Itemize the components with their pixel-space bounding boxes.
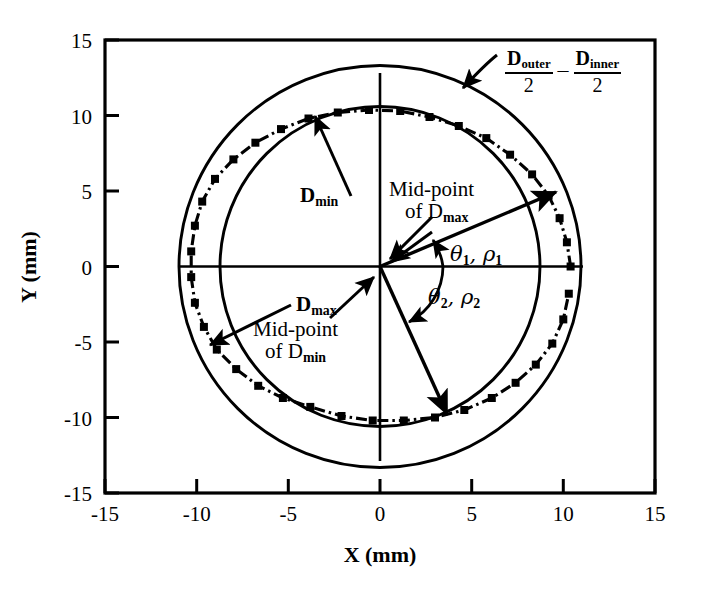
annotation-theta2-rho2: θ2, ρ2 (428, 286, 480, 311)
dmin-sub: min (315, 194, 338, 209)
svg-text:10: 10 (553, 502, 574, 526)
y-axis-title: Y (mm) (16, 231, 41, 303)
formula-num1-sub: outer (521, 57, 550, 71)
rho2-sub: 2 (473, 296, 480, 311)
dmin-label: D (300, 183, 315, 207)
dmax-label: D (296, 292, 311, 316)
y-tick-labels: 15 10 5 0 -5 -10 -15 (64, 29, 92, 506)
svg-text:15: 15 (71, 29, 92, 53)
theta1-comma: , (470, 242, 483, 266)
rho1-label: ρ (483, 242, 495, 266)
svg-text:10: 10 (71, 105, 92, 129)
annotation-midpoint-dmin: Mid-point of Dmin (253, 318, 338, 365)
formula-den2: 2 (590, 74, 604, 95)
formula-den1: 2 (522, 74, 536, 95)
svg-text:0: 0 (82, 256, 93, 280)
svg-text:0: 0 (375, 502, 386, 526)
theta2-label: θ (428, 285, 441, 309)
formula-leader (463, 55, 497, 88)
annotation-midpoint-dmax: Mid-point of Dmax (389, 178, 474, 225)
midpoint-dmin-sub: min (303, 350, 326, 365)
midpoint-dmax-line2: of Dmax (389, 200, 474, 225)
annotation-formula: Douter 2 – Dinner 2 (505, 48, 621, 95)
rho2-label: ρ (461, 285, 473, 309)
svg-text:5: 5 (82, 180, 93, 204)
svg-text:15: 15 (645, 502, 666, 526)
svg-text:-15: -15 (64, 482, 92, 506)
midpoint-dmax-line1: Mid-point (389, 178, 474, 200)
svg-text:5: 5 (466, 502, 477, 526)
dmax-sub: max (311, 303, 336, 318)
formula-num2: D (576, 47, 590, 69)
x-tick-labels: -15 -10 -5 0 5 10 15 (91, 502, 666, 526)
midpoint-dmin-line2: of Dmin (253, 340, 338, 365)
fraction-inner: Dinner 2 (574, 48, 622, 95)
formula-num1: D (507, 47, 521, 69)
midpoint-dmin-line1: Mid-point (253, 318, 338, 340)
theta1-label: θ (450, 242, 463, 266)
formula-operator: – (558, 57, 569, 85)
theta2-comma: , (448, 285, 461, 309)
svg-text:-10: -10 (64, 407, 92, 431)
annotation-dmax: Dmax (296, 293, 337, 318)
figure-container: -15 -10 -5 0 5 10 15 15 10 5 0 -5 -10 -1… (0, 0, 702, 590)
svg-text:-5: -5 (75, 331, 93, 355)
midpoint-dmax-sub: max (443, 210, 468, 225)
theta2-sub: 2 (441, 296, 448, 311)
rho1-sub: 1 (495, 253, 502, 268)
theta1-sub: 1 (463, 253, 470, 268)
svg-text:-10: -10 (183, 502, 211, 526)
fraction-outer: Douter 2 (505, 48, 553, 95)
formula-num2-sub: inner (590, 57, 619, 71)
svg-text:-15: -15 (91, 502, 119, 526)
theta1-arc (433, 240, 443, 267)
annotation-theta1-rho1: θ1, ρ1 (450, 243, 502, 268)
x-axis-title: X (mm) (344, 542, 417, 567)
annotation-dmin: Dmin (300, 184, 338, 209)
svg-text:-5: -5 (280, 502, 298, 526)
